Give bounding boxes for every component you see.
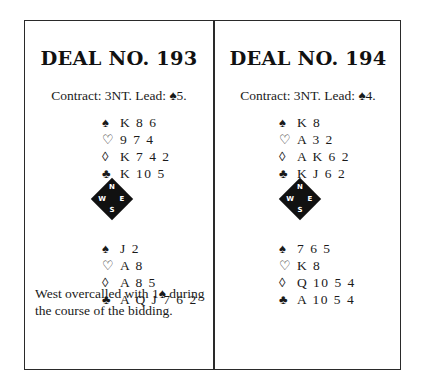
deal-194-panel: DEAL NO. 194 Contract: 3NT. Lead: ♠4. ♠K…: [215, 20, 401, 370]
bidding-note: West overcalled with 1♠ during the cours…: [35, 285, 205, 319]
heart-icon: ♡: [279, 257, 297, 274]
club-icon: ♣: [279, 165, 297, 182]
north-spades: ♠K 8 6: [102, 114, 213, 131]
north-hearts: ♡9 7 4: [102, 131, 213, 148]
contract-line: Contract: 3NT. Lead: ♠4.: [215, 88, 401, 104]
south-diamonds: ◊Q 10 5 4: [279, 274, 401, 291]
north-hand: ♠K 8 6 ♡9 7 4 ◊K 7 4 2 ♣K 10 5: [102, 114, 213, 182]
deal-title: DEAL NO. 194: [213, 47, 403, 69]
contract-line: Contract: 3NT. Lead: ♠5.: [25, 88, 213, 104]
compass-icon: N W E S: [97, 184, 127, 214]
club-icon: ♣: [279, 291, 297, 308]
spade-icon: ♠: [102, 114, 120, 131]
north-diamonds: ◊K 7 4 2: [102, 148, 213, 165]
diamond-icon: ◊: [279, 274, 297, 291]
north-diamonds: ◊A K 6 2: [279, 148, 401, 165]
north-clubs: ♣K 10 5: [102, 165, 213, 182]
south-spades: ♠J 2: [102, 240, 213, 257]
heart-icon: ♡: [102, 131, 120, 148]
diamond-icon: ◊: [279, 148, 297, 165]
south-clubs: ♣A 10 5 4: [279, 291, 401, 308]
south-hearts: ♡K 8: [279, 257, 401, 274]
deal-title: DEAL NO. 193: [23, 47, 215, 69]
south-hand: ♠7 6 5 ♡K 8 ◊Q 10 5 4 ♣A 10 5 4: [279, 240, 401, 308]
spade-icon: ♠: [279, 240, 297, 257]
south-hearts: ♡A 8: [102, 257, 213, 274]
diamond-icon: ◊: [102, 148, 120, 165]
deal-193-panel: DEAL NO. 193 Contract: 3NT. Lead: ♠5. ♠K…: [25, 20, 213, 370]
heart-icon: ♡: [279, 131, 297, 148]
north-hearts: ♡A 3 2: [279, 131, 401, 148]
spade-icon: ♠: [279, 114, 297, 131]
heart-icon: ♡: [102, 257, 120, 274]
north-hand: ♠K 8 ♡A 3 2 ◊A K 6 2 ♣K J 6 2: [279, 114, 401, 182]
north-spades: ♠K 8: [279, 114, 401, 131]
compass-icon: N W E S: [285, 184, 315, 214]
south-spades: ♠7 6 5: [279, 240, 401, 257]
spade-icon: ♠: [102, 240, 120, 257]
